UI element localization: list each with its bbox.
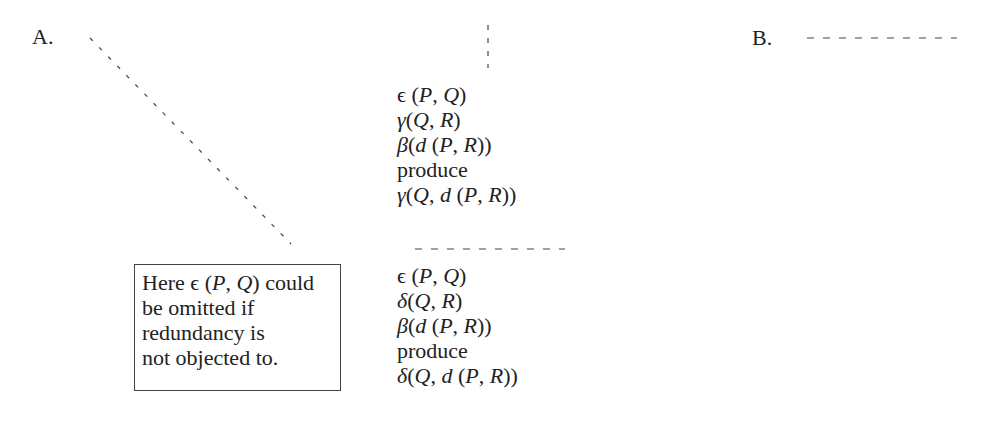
formula-line-result: δ(Q, d (P, R)) xyxy=(397,363,518,388)
note-line: not objected to. xyxy=(142,345,340,370)
note-line: Here ϵ (P, Q) could xyxy=(142,270,340,295)
upper-formula-block: ϵ (P, Q) γ(Q, R) β(d (P, R)) produce γ(Q… xyxy=(397,82,516,207)
formula-line-produce: produce xyxy=(397,157,516,182)
label-a: A. xyxy=(32,26,53,48)
diagonal-dashed-line xyxy=(90,38,291,244)
note-line: redundancy is xyxy=(142,320,340,345)
note-line: be omitted if xyxy=(142,295,340,320)
formula-line-produce: produce xyxy=(397,338,518,363)
formula-line-result: γ(Q, d (P, R)) xyxy=(397,182,516,207)
formula-line: β(d (P, R)) xyxy=(397,313,518,338)
formula-line: ϵ (P, Q) xyxy=(397,82,516,107)
formula-line: ϵ (P, Q) xyxy=(397,263,518,288)
label-b: B. xyxy=(752,27,772,49)
note-box: Here ϵ (P, Q) could be omitted if redund… xyxy=(134,264,341,391)
formula-line: δ(Q, R) xyxy=(397,288,518,313)
lower-formula-block: ϵ (P, Q) δ(Q, R) β(d (P, R)) produce δ(Q… xyxy=(397,263,518,388)
formula-line: γ(Q, R) xyxy=(397,107,516,132)
formula-line: β(d (P, R)) xyxy=(397,132,516,157)
